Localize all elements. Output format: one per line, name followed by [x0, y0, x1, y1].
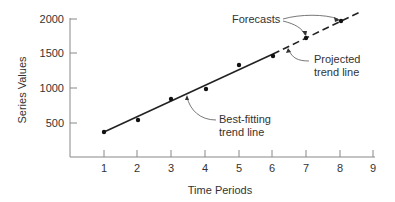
x-tick-label: 6 — [269, 162, 275, 174]
x-tick-label: 9 — [370, 162, 376, 174]
y-tick-label: 1500 — [40, 47, 64, 59]
projected-label-line1: Projected — [314, 53, 360, 65]
y-tick-label: 1000 — [40, 82, 64, 94]
x-tick-label: 7 — [303, 162, 309, 174]
x-tick-labels: 1 2 3 4 5 6 7 8 9 — [101, 162, 376, 174]
x-ticks — [104, 150, 373, 157]
forecasts-arrow-1 — [283, 15, 338, 19]
data-point — [136, 118, 140, 122]
x-tick-label: 1 — [101, 162, 107, 174]
data-point — [169, 97, 173, 101]
x-axis-title: Time Periods — [188, 184, 253, 196]
arrowhead-icon — [185, 95, 189, 100]
y-tick-label: 2000 — [40, 13, 64, 25]
bestfit-annotation: Best-fitting trend line — [185, 95, 271, 138]
forecast-point — [339, 19, 343, 23]
y-ticks: 2000 1500 1000 500 — [40, 13, 77, 129]
x-tick-label: 5 — [236, 162, 242, 174]
trend-forecast-chart: 2000 1500 1000 500 1 2 3 4 5 6 7 8 9 Tim… — [0, 0, 395, 202]
forecast-point — [304, 36, 308, 40]
y-axis-title: Series Values — [16, 56, 28, 124]
bestfit-label-line1: Best-fitting — [219, 113, 271, 125]
bestfit-label-line2: trend line — [219, 126, 264, 138]
projected-arrow — [289, 50, 309, 61]
x-tick-label: 4 — [202, 162, 208, 174]
arrowhead-icon — [302, 31, 307, 36]
x-tick-label: 2 — [134, 162, 140, 174]
y-tick-label: 500 — [46, 117, 64, 129]
bestfit-arrow — [187, 97, 216, 120]
data-point — [271, 54, 275, 58]
projected-label-line2: trend line — [314, 66, 359, 78]
x-tick-label: 3 — [168, 162, 174, 174]
data-point — [102, 130, 106, 134]
x-tick-label: 8 — [337, 162, 343, 174]
forecasts-label: Forecasts — [232, 13, 281, 25]
forecasts-arrow-2 — [283, 21, 305, 35]
data-point — [204, 87, 208, 91]
projected-annotation: Projected trend line — [286, 48, 360, 78]
forecasts-annotation: Forecasts — [232, 13, 340, 36]
data-point — [237, 63, 241, 67]
